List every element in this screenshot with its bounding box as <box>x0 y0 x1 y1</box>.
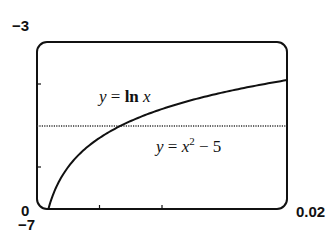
ann-ln-x: x <box>139 87 151 106</box>
ann-ln-eq: = <box>107 87 125 106</box>
annotation-parabola: y = x2 − 5 <box>156 138 221 155</box>
ann-par-eq: = <box>164 137 182 156</box>
ann-par-rest: − 5 <box>195 137 222 156</box>
ann-ln-fn: ln <box>125 87 139 106</box>
ann-ln-y: y <box>99 87 107 106</box>
y-min-label: −7 <box>18 217 35 232</box>
y-max-label: −3 <box>12 18 29 33</box>
ann-par-y: y <box>156 137 164 156</box>
annotation-ln: y = ln x <box>99 88 151 105</box>
x-max-label: 0.02 <box>296 204 325 219</box>
chart-canvas <box>0 0 336 242</box>
